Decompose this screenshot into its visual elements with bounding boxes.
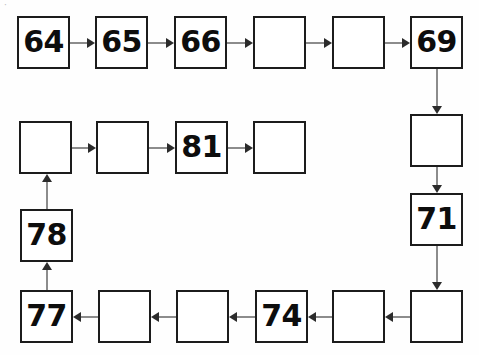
number-box-filled[interactable]: 65 xyxy=(95,16,148,69)
number-box-blank[interactable] xyxy=(96,121,149,174)
arrow-77-78-line xyxy=(46,270,48,290)
number-box-filled[interactable]: 78 xyxy=(20,209,73,262)
number-box-filled[interactable]: 81 xyxy=(175,121,228,174)
arrow-76-77-line xyxy=(81,316,98,318)
arrow-70-71-line xyxy=(436,167,438,185)
arrow-74-75-line xyxy=(237,316,255,318)
arrow-80-81-line xyxy=(149,147,167,149)
number-box-value: 74 xyxy=(261,301,302,333)
number-box-blank[interactable] xyxy=(332,290,385,343)
arrow-75-76-line xyxy=(159,316,176,318)
arrow-81-82-line xyxy=(228,147,245,149)
arrow-74-75-arrowhead xyxy=(229,312,237,322)
worksheet-canvas: · 646566697174777881 xyxy=(0,0,479,355)
arrow-68-69-line xyxy=(385,42,402,44)
arrow-71-72-line xyxy=(436,246,438,282)
number-box-blank[interactable] xyxy=(253,121,306,174)
arrow-77-78-arrowhead xyxy=(42,262,52,270)
number-box-value: 77 xyxy=(26,301,67,333)
arrow-69-70-arrowhead xyxy=(432,106,442,114)
arrow-79-80-line xyxy=(72,147,88,149)
arrow-70-71-arrowhead xyxy=(432,185,442,193)
arrow-66-67-arrowhead xyxy=(245,38,253,48)
arrow-68-69-arrowhead xyxy=(402,38,410,48)
arrow-78-79-line xyxy=(46,182,48,209)
number-box-value: 78 xyxy=(26,220,67,252)
number-box-filled[interactable]: 77 xyxy=(20,290,73,343)
arrow-67-68-arrowhead xyxy=(324,38,332,48)
number-box-blank[interactable] xyxy=(410,290,463,343)
arrow-65-66-arrowhead xyxy=(166,38,174,48)
number-box-blank[interactable] xyxy=(332,16,385,69)
arrow-72-73-line xyxy=(393,316,410,318)
number-box-value: 71 xyxy=(416,204,457,236)
arrow-75-76-arrowhead xyxy=(151,312,159,322)
arrow-67-68-line xyxy=(306,42,324,44)
arrow-65-66-line xyxy=(148,42,166,44)
number-box-blank[interactable] xyxy=(253,16,306,69)
arrow-79-80-arrowhead xyxy=(88,143,96,153)
scan-artifact-mark: · xyxy=(4,1,13,9)
number-box-filled[interactable]: 74 xyxy=(255,290,308,343)
arrow-80-81-arrowhead xyxy=(167,143,175,153)
arrow-72-73-arrowhead xyxy=(385,312,393,322)
arrow-71-72-arrowhead xyxy=(432,282,442,290)
arrow-66-67-line xyxy=(227,42,245,44)
number-box-filled[interactable]: 66 xyxy=(174,16,227,69)
arrow-78-79-arrowhead xyxy=(42,174,52,182)
number-box-filled[interactable]: 71 xyxy=(410,193,463,246)
number-box-blank[interactable] xyxy=(176,290,229,343)
number-box-filled[interactable]: 64 xyxy=(17,16,70,69)
number-box-blank[interactable] xyxy=(98,290,151,343)
number-box-value: 64 xyxy=(23,27,64,59)
number-box-value: 66 xyxy=(180,27,221,59)
arrow-76-77-arrowhead xyxy=(73,312,81,322)
arrow-64-65-line xyxy=(70,42,87,44)
arrow-73-74-arrowhead xyxy=(308,312,316,322)
arrow-73-74-line xyxy=(316,316,332,318)
arrow-69-70-line xyxy=(436,69,438,106)
arrow-81-82-arrowhead xyxy=(245,143,253,153)
number-box-filled[interactable]: 69 xyxy=(410,16,463,69)
number-box-blank[interactable] xyxy=(19,121,72,174)
number-box-value: 81 xyxy=(181,132,222,164)
arrow-64-65-arrowhead xyxy=(87,38,95,48)
number-box-value: 65 xyxy=(101,27,142,59)
number-box-value: 69 xyxy=(416,27,457,59)
number-box-blank[interactable] xyxy=(410,114,463,167)
